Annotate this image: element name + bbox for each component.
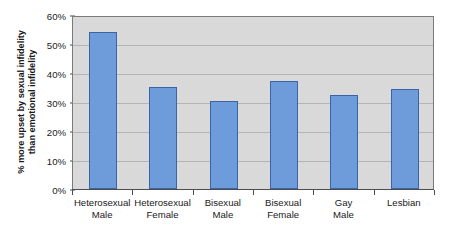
x-axis-tick-label: GayMale bbox=[333, 197, 354, 222]
x-axis-tick-label-line: Gay bbox=[333, 197, 354, 209]
x-axis-tick-label-line: Lesbian bbox=[387, 197, 421, 209]
x-axis-tick-label-line: Female bbox=[265, 209, 301, 221]
x-axis-tick-mark bbox=[72, 190, 73, 195]
y-axis-tick-label: 30% bbox=[47, 98, 66, 109]
y-axis-tick-label: 20% bbox=[47, 127, 66, 138]
bars-layer bbox=[73, 17, 433, 189]
bar-slot bbox=[254, 17, 314, 189]
x-axis-tick-label: BisexualMale bbox=[205, 197, 241, 222]
bar[interactable] bbox=[89, 32, 117, 189]
y-axis-tick-label: 10% bbox=[47, 156, 66, 167]
plot-area bbox=[72, 16, 434, 190]
bar[interactable] bbox=[149, 87, 177, 189]
x-axis-tick-label-line: Heterosexual bbox=[74, 197, 131, 209]
y-axis-tick-label: 50% bbox=[47, 40, 66, 51]
x-axis-tick-mark bbox=[313, 190, 314, 195]
x-axis-tick-label: BisexualFemale bbox=[265, 197, 301, 222]
y-axis-tick-labels: 0%10%20%30%40%50%60% bbox=[18, 11, 70, 195]
bar[interactable] bbox=[330, 95, 358, 189]
bar-slot bbox=[314, 17, 374, 189]
y-axis-tick-label: 0% bbox=[52, 185, 66, 196]
x-axis-tick-label-line: Heterosexual bbox=[134, 197, 191, 209]
x-axis-tick-label: Lesbian bbox=[387, 197, 421, 209]
x-axis-tick-mark bbox=[193, 190, 194, 195]
x-axis-tick-mark bbox=[253, 190, 254, 195]
bar[interactable] bbox=[270, 81, 298, 189]
x-axis-tick-label-line: Male bbox=[74, 209, 131, 221]
bar[interactable] bbox=[391, 89, 419, 189]
x-axis-tick-mark bbox=[434, 190, 435, 195]
bar[interactable] bbox=[210, 101, 238, 189]
bar-chart: % more upset by sexual infidelity than e… bbox=[0, 0, 453, 239]
y-axis-tick-label: 60% bbox=[47, 11, 66, 22]
x-axis-tick-mark bbox=[374, 190, 375, 195]
x-axis-tick-label-line: Bisexual bbox=[265, 197, 301, 209]
x-axis-tick-label-line: Female bbox=[134, 209, 191, 221]
y-axis-tick-label: 40% bbox=[47, 69, 66, 80]
x-axis-tick-label-line: Male bbox=[205, 209, 241, 221]
x-axis-tick-label-line: Male bbox=[333, 209, 354, 221]
bar-slot bbox=[194, 17, 254, 189]
x-axis-tick-label: HeterosexualFemale bbox=[134, 197, 191, 222]
bar-slot bbox=[375, 17, 435, 189]
bar-slot bbox=[73, 17, 133, 189]
x-axis-tick-mark bbox=[132, 190, 133, 195]
x-axis-tick-label-line: Bisexual bbox=[205, 197, 241, 209]
x-axis-tick-labels: HeterosexualMaleHeterosexualFemaleBisexu… bbox=[72, 197, 434, 235]
bar-slot bbox=[133, 17, 193, 189]
x-axis-tick-label: HeterosexualMale bbox=[74, 197, 131, 222]
